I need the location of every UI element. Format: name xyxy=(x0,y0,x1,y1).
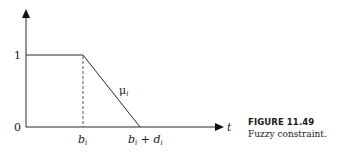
bd-plus: + xyxy=(137,133,153,146)
b-sub: i xyxy=(85,139,87,147)
x-axis-label: t xyxy=(227,122,231,133)
curve-label: μi xyxy=(119,85,128,98)
y-axis-arrow-icon xyxy=(22,9,30,18)
figure-caption: Fuzzy constraint. xyxy=(248,129,327,139)
b-plus-d-label: bi + di xyxy=(128,134,163,147)
figure-label: FIGURE 11.49 xyxy=(248,117,314,127)
bd-b: b xyxy=(128,133,135,146)
curve-label-sub: i xyxy=(126,90,128,98)
y-tick-zero: 0 xyxy=(14,122,21,133)
y-tick-one: 1 xyxy=(14,50,21,61)
x-axis-arrow-icon xyxy=(215,123,224,131)
bd-d-sub: i xyxy=(161,139,163,147)
bd-d: d xyxy=(154,133,161,146)
b-base: b xyxy=(78,133,85,146)
b-i-label: bi xyxy=(78,134,87,147)
